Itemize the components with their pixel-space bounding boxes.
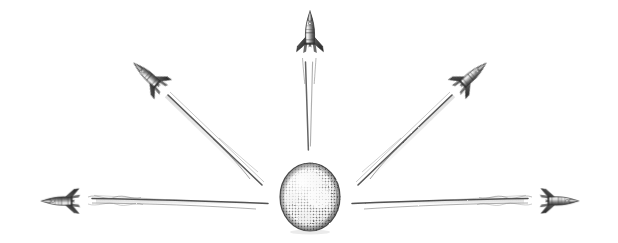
illustration-canvas xyxy=(0,0,618,243)
rockets-and-globe-illustration xyxy=(0,0,618,243)
